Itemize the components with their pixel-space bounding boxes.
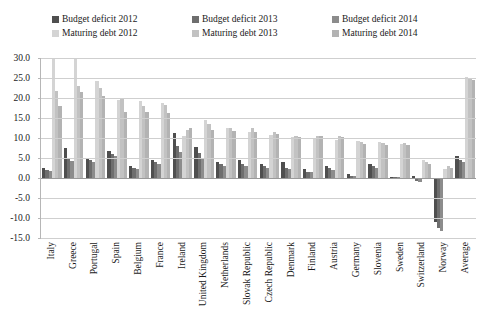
legend-swatch xyxy=(52,30,59,37)
y-axis-tick-mark xyxy=(38,118,41,119)
bar-group xyxy=(215,58,237,238)
bar-slot xyxy=(254,58,257,238)
x-axis-tick-label: Spain xyxy=(111,242,121,264)
x-axis-tick-label: Netherlands xyxy=(220,242,230,288)
x-axis-label-cell: Switzerland xyxy=(411,240,433,328)
bar-slot xyxy=(276,58,279,238)
bar-slot xyxy=(80,58,83,238)
legend-swatch xyxy=(332,16,339,23)
x-axis-label-cell: Slovak Republic xyxy=(236,240,258,328)
bar-group xyxy=(128,58,150,238)
bar-slot xyxy=(211,58,214,238)
y-axis-tick-mark xyxy=(38,178,41,179)
y-axis-tick-label: 10.0 xyxy=(0,134,30,143)
x-axis-tick-label: Italy xyxy=(46,242,56,259)
bar xyxy=(124,112,127,178)
x-axis-label-cell: Finland xyxy=(302,240,324,328)
x-axis-label-cell: Slovenia xyxy=(367,240,389,328)
legend-item: Maturing debt 2012 xyxy=(52,28,192,38)
bar-slot xyxy=(406,58,409,238)
bar-slot xyxy=(341,58,344,238)
x-axis-tick-label: Finland xyxy=(307,242,317,271)
x-axis-tick-label: Austria xyxy=(329,242,339,270)
bar xyxy=(254,132,257,178)
x-axis-label-cell: France xyxy=(149,240,171,328)
legend-label: Budget deficit 2013 xyxy=(202,14,277,24)
x-axis-tick-label: Slovenia xyxy=(373,242,383,275)
x-axis-label-cell: United Kingdom xyxy=(193,240,215,328)
bar xyxy=(472,80,475,178)
bar-slot xyxy=(102,58,105,238)
bar-group xyxy=(150,58,172,238)
bar-groups xyxy=(41,58,476,238)
gridline xyxy=(41,158,476,159)
bar-group xyxy=(411,58,433,238)
x-axis-tick-label: Average xyxy=(460,242,470,273)
zero-axis-line xyxy=(41,178,476,179)
gridline xyxy=(41,78,476,79)
x-axis-tick-label: Slovak Republic xyxy=(242,242,252,305)
legend-item: Budget deficit 2012 xyxy=(52,14,192,24)
legend-item: Maturing debt 2013 xyxy=(192,28,332,38)
y-axis-tick-label: 15.0 xyxy=(0,114,30,123)
y-axis-tick-label: -15.0 xyxy=(0,234,30,243)
bar-group xyxy=(259,58,281,238)
legend-item: Maturing debt 2014 xyxy=(332,28,472,38)
bar-slot xyxy=(472,58,475,238)
gridline xyxy=(41,58,476,59)
x-axis-labels: ItalyGreecePortugalSpainBelgiumFranceIre… xyxy=(40,240,476,328)
x-axis-label-cell: Average xyxy=(454,240,476,328)
bar-slot xyxy=(363,58,366,238)
bar xyxy=(385,145,388,178)
bar-slot xyxy=(385,58,388,238)
bar xyxy=(363,144,366,178)
gridline xyxy=(41,138,476,139)
chart-legend: Budget deficit 2012Budget deficit 2013Bu… xyxy=(52,12,472,40)
gridline xyxy=(41,238,476,239)
legend-item: Budget deficit 2014 xyxy=(332,14,472,24)
x-axis-label-cell: Greece xyxy=(62,240,84,328)
x-axis-tick-label: Denmark xyxy=(286,242,296,277)
legend-label: Maturing debt 2012 xyxy=(62,28,137,38)
bar xyxy=(102,96,105,178)
legend-label: Maturing debt 2013 xyxy=(202,28,277,38)
x-axis-tick-label: Belgium xyxy=(133,242,143,275)
bar-group xyxy=(433,58,455,238)
bar-chart: Budget deficit 2012Budget deficit 2013Bu… xyxy=(0,0,483,329)
legend-label: Budget deficit 2014 xyxy=(342,14,417,24)
bar-slot xyxy=(298,58,301,238)
bar xyxy=(276,134,279,178)
bar xyxy=(58,106,61,178)
bar-slot xyxy=(428,58,431,238)
bar-group xyxy=(346,58,368,238)
gridline xyxy=(41,198,476,199)
bar-slot xyxy=(232,58,235,238)
x-axis-label-cell: Spain xyxy=(105,240,127,328)
x-axis-label-cell: Netherlands xyxy=(214,240,236,328)
bar-group xyxy=(63,58,85,238)
bar-group xyxy=(324,58,346,238)
y-axis-tick-mark xyxy=(38,78,41,79)
x-axis-label-cell: Denmark xyxy=(280,240,302,328)
y-axis-tick-label: 25.0 xyxy=(0,74,30,83)
bar-group xyxy=(172,58,194,238)
gridline xyxy=(41,118,476,119)
x-axis-tick-label: Portugal xyxy=(89,242,99,274)
x-axis-tick-label: Czech Republic xyxy=(264,242,274,302)
gridline xyxy=(41,98,476,99)
x-axis-tick-label: Greece xyxy=(68,242,78,269)
legend-item: Budget deficit 2013 xyxy=(192,14,332,24)
x-axis-label-cell: Ireland xyxy=(171,240,193,328)
y-axis-tick-mark xyxy=(38,138,41,139)
y-axis-tick-label: 0.0 xyxy=(0,174,30,183)
y-axis-tick-label: -10.0 xyxy=(0,214,30,223)
bar xyxy=(189,128,192,178)
y-axis-tick-mark xyxy=(38,238,41,239)
bar-slot xyxy=(189,58,192,238)
x-axis-tick-label: Ireland xyxy=(177,242,187,269)
y-axis-tick-label: 5.0 xyxy=(0,154,30,163)
legend-label: Maturing debt 2014 xyxy=(342,28,417,38)
y-axis-tick-mark xyxy=(38,198,41,199)
y-axis-tick-mark xyxy=(38,58,41,59)
legend-swatch xyxy=(332,30,339,37)
